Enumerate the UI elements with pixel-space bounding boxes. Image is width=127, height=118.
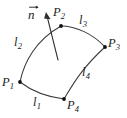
- vertex-dot-p3: [103, 45, 107, 49]
- vertex-label-p4: P4: [67, 99, 79, 112]
- normal-vector-label: n: [28, 7, 35, 20]
- vertex-label-p1: P1: [2, 76, 14, 89]
- vertex-dot-p2: [59, 24, 63, 28]
- normal-vector-line: [47, 18, 58, 61]
- figure-canvas: P1 P2 P3 P4 l1 l2 l3 l4 n: [0, 0, 127, 118]
- vertex-label-p2: P2: [53, 6, 65, 19]
- edge-label-l1: l1: [33, 96, 41, 109]
- normal-vector-arrowhead: [44, 12, 51, 19]
- vertex-dot-p1: [18, 80, 22, 84]
- edge-curve-l1: [20, 82, 64, 99]
- edge-curve-l2: [20, 26, 61, 82]
- edge-label-l2: l2: [14, 36, 22, 49]
- vertex-dot-p4: [62, 97, 66, 101]
- edge-label-l3: l3: [79, 14, 87, 27]
- edge-curve-l3: [61, 26, 105, 47]
- edge-label-l4: l4: [82, 66, 90, 79]
- vertex-label-p3: P3: [108, 37, 120, 50]
